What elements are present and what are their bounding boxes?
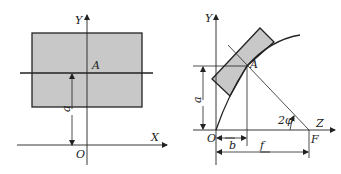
right-z-label: Z xyxy=(315,117,324,130)
right-figure: Y A a 2φ Z O F b f xyxy=(191,12,335,165)
right-f-point-label: F xyxy=(310,133,319,146)
right-y-label: Y xyxy=(205,12,214,25)
left-a-dimension-label: a xyxy=(60,105,73,112)
diagram-canvas: Y A a X O Y A a 2φ Z O F b f xyxy=(0,0,341,174)
right-angle-label: 2φ xyxy=(277,114,293,127)
left-y-label: Y xyxy=(75,14,84,27)
left-x-label: X xyxy=(150,131,160,144)
right-focal-ray xyxy=(228,45,309,130)
right-curved-block xyxy=(212,28,274,96)
right-a-dimension-label: a xyxy=(191,96,204,103)
right-a-point-label: A xyxy=(249,58,258,71)
left-a-point-label: A xyxy=(91,59,100,72)
right-origin-label: O xyxy=(207,132,216,145)
right-b-label: b xyxy=(229,139,236,152)
left-origin-label: O xyxy=(76,148,85,161)
left-figure: Y A a X O xyxy=(17,14,167,165)
right-f-label: f xyxy=(259,139,266,152)
